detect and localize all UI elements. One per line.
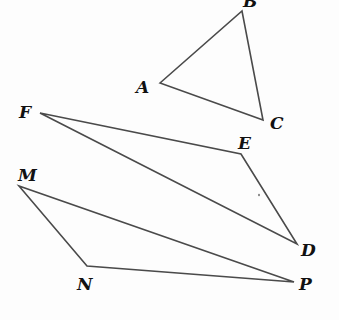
vertex-label-b: B (242, 0, 257, 11)
vertex-label-a: A (134, 77, 149, 97)
vertex-label-f: F (18, 102, 33, 122)
geometry-diagram: A B C F E D M N P (0, 0, 339, 320)
vertex-label-d: D (300, 240, 316, 260)
triangle-abc-outline (160, 11, 263, 120)
vertex-label-c: C (270, 113, 284, 133)
triangle-mnp-outline (19, 186, 294, 282)
vertex-label-m: M (17, 165, 38, 185)
triangle-abc: A B C (134, 0, 284, 133)
vertex-label-e: E (237, 133, 252, 153)
vertex-label-n: N (76, 274, 94, 294)
vertex-label-p: P (298, 274, 313, 294)
print-speck (258, 194, 260, 197)
triangle-fed-outline (40, 113, 297, 244)
